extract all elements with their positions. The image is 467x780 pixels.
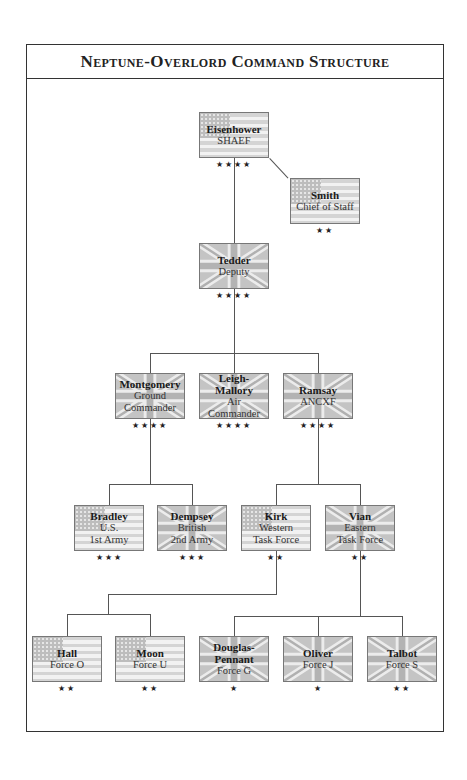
node-text: MoonForce U xyxy=(116,637,184,681)
node-text: Douglas-PennantForce G xyxy=(200,637,268,681)
commander-role: Commander xyxy=(208,408,260,419)
commander-name: Smith xyxy=(311,189,339,201)
connector-to-talbot xyxy=(402,616,403,636)
title-bar: Neptune-Overlord Command Structure xyxy=(27,45,443,79)
commander-name: Bradley xyxy=(90,510,127,522)
commander-name: Hall xyxy=(57,647,77,659)
node-text: HallForce O xyxy=(33,637,101,681)
node-moon: MoonForce U xyxy=(115,636,185,682)
commander-role: Air xyxy=(227,396,241,408)
rank-stars-icon: ★ xyxy=(199,684,269,693)
rank-stars-icon: ★★★ xyxy=(74,553,144,562)
diagram-title: Neptune-Overlord Command Structure xyxy=(81,52,390,72)
rank-stars-icon: ★★ xyxy=(325,553,395,562)
rank-stars-icon: ★★ xyxy=(290,226,360,235)
connector-kirk-horizontal xyxy=(108,594,277,595)
rank-stars-icon: ★★★★ xyxy=(115,421,185,430)
node-text: KirkWesternTask Force xyxy=(242,506,310,550)
connector-to-hall xyxy=(67,614,68,636)
node-text: EisenhowerSHAEF xyxy=(200,113,268,157)
connector-western-forces-horizontal xyxy=(67,614,151,615)
commander-role: Force J xyxy=(303,659,334,671)
commander-role: Chief of Staff xyxy=(296,201,354,213)
node-text: Leigh-MalloryAirCommander xyxy=(200,374,268,418)
node-eisenhower: EisenhowerSHAEF xyxy=(199,112,269,158)
commander-role: Deputy xyxy=(219,266,250,278)
node-douglas-pennant: Douglas-PennantForce G xyxy=(199,636,269,682)
rank-stars-icon: ★★ xyxy=(241,553,311,562)
commander-role: Task Force xyxy=(337,534,383,546)
commander-role: Force U xyxy=(133,659,167,671)
connector-to-oliver xyxy=(318,616,319,636)
connector-eisenhower-tedder xyxy=(234,158,235,243)
rank-stars-icon: ★★★★ xyxy=(199,421,269,430)
node-text: VianEasternTask Force xyxy=(326,506,394,550)
rank-stars-icon: ★★ xyxy=(115,684,185,693)
node-text: MontgomeryGroundCommander xyxy=(116,374,184,418)
commander-name: Kirk xyxy=(265,510,288,522)
commander-role: U.S. xyxy=(100,522,119,534)
rank-stars-icon: ★ xyxy=(283,684,353,693)
node-vian: VianEasternTask Force xyxy=(325,505,395,551)
connector-row3-horizontal xyxy=(150,353,319,354)
node-text: BradleyU.S.1st Army xyxy=(75,506,143,550)
node-text: TalbotForce S xyxy=(368,637,436,681)
commander-name: Moon xyxy=(136,647,164,659)
commander-name: Eisenhower xyxy=(207,123,262,135)
node-hall: HallForce O xyxy=(32,636,102,682)
node-text: RamsayANCXF xyxy=(284,374,352,418)
connector-kirk-drop xyxy=(108,594,109,614)
node-text: DempseyBritish2nd Army xyxy=(158,506,226,550)
rank-stars-icon: ★★★★ xyxy=(199,160,269,169)
node-talbot: TalbotForce S xyxy=(367,636,437,682)
node-smith: SmithChief of Staff xyxy=(290,178,360,224)
commander-name: Douglas- xyxy=(213,641,255,653)
commander-role: Force O xyxy=(50,659,84,671)
commander-name: Pennant xyxy=(214,653,253,665)
node-kirk: KirkWesternTask Force xyxy=(241,505,311,551)
commander-role: British xyxy=(178,522,207,534)
connector-to-ramsay xyxy=(318,353,319,373)
commander-name: Leigh-Mallory xyxy=(200,373,268,396)
commander-name: Tedder xyxy=(217,254,250,266)
commander-name: Vian xyxy=(349,510,371,522)
commander-name: Oliver xyxy=(303,647,333,659)
node-oliver: OliverForce J xyxy=(283,636,353,682)
commander-name: Talbot xyxy=(387,647,417,659)
connector-to-douglas-pennant xyxy=(234,616,235,636)
connector-taskforce-horizontal xyxy=(276,484,361,485)
connector-army-horizontal xyxy=(109,484,193,485)
commander-name: Dempsey xyxy=(171,510,214,522)
node-text: OliverForce J xyxy=(284,637,352,681)
commander-role: ANCXF xyxy=(300,396,336,408)
node-ramsay: RamsayANCXF xyxy=(283,373,353,419)
commander-role: Task Force xyxy=(253,534,299,546)
connector-to-montgomery xyxy=(150,353,151,373)
commander-role: Western xyxy=(259,522,293,534)
commander-role: Force S xyxy=(386,659,418,671)
commander-name: Montgomery xyxy=(119,378,180,390)
node-tedder: TedderDeputy xyxy=(199,243,269,289)
commander-role: 2nd Army xyxy=(171,534,213,546)
commander-name: Ramsay xyxy=(299,384,337,396)
connector-to-dempsey xyxy=(192,484,193,505)
rank-stars-icon: ★★★★ xyxy=(283,421,353,430)
node-montgomery: MontgomeryGroundCommander xyxy=(115,373,185,419)
node-text: TedderDeputy xyxy=(200,244,268,288)
node-dempsey: DempseyBritish2nd Army xyxy=(157,505,227,551)
commander-role: SHAEF xyxy=(217,135,250,147)
commander-role: 1st Army xyxy=(90,534,129,546)
commander-role: Force G xyxy=(217,665,251,677)
commander-role: Ground xyxy=(134,390,166,402)
connector-to-moon xyxy=(150,614,151,636)
rank-stars-icon: ★★★★ xyxy=(199,291,269,300)
connector-to-vian xyxy=(360,484,361,505)
node-leigh-mallory: Leigh-MalloryAirCommander xyxy=(199,373,269,419)
connector-tedder-down xyxy=(234,289,235,373)
rank-stars-icon: ★★ xyxy=(367,684,437,693)
commander-role: Eastern xyxy=(344,522,376,534)
connector-to-kirk xyxy=(276,484,277,505)
rank-stars-icon: ★★★ xyxy=(157,553,227,562)
node-bradley: BradleyU.S.1st Army xyxy=(74,505,144,551)
connector-to-bradley xyxy=(109,484,110,505)
